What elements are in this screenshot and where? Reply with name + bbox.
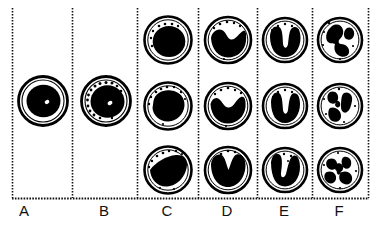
column-label-f: F (319, 203, 359, 218)
cell-c-2 (145, 83, 192, 130)
cell-c-1 (145, 17, 192, 64)
cell-c-3 (145, 147, 192, 194)
column-label-d: D (207, 203, 247, 218)
cell-b-1 (82, 77, 131, 126)
nucleus (27, 85, 61, 117)
cell-e-1 (263, 18, 307, 62)
column-label-b: B (84, 203, 124, 218)
column-label-a: A (4, 203, 44, 218)
granulocyte-maturation-figure (0, 0, 373, 226)
column-label-c: C (147, 203, 187, 218)
cell-a-1 (19, 77, 68, 126)
figure-canvas (0, 0, 373, 226)
cell-d-2 (205, 83, 251, 129)
cell-d-3 (205, 147, 251, 193)
cell-e-3 (263, 148, 307, 192)
cell-d-1 (205, 17, 251, 63)
column-label-e: E (264, 203, 304, 218)
cell-e-2 (263, 84, 307, 128)
cell-f-2 (318, 84, 362, 128)
nucleus (153, 26, 186, 57)
cell-f-1 (318, 18, 362, 62)
nucleus (91, 85, 125, 117)
cell-f-3 (318, 148, 362, 192)
